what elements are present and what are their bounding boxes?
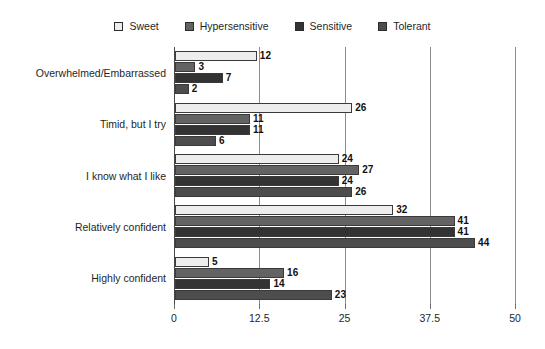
bar-group: 5161423 bbox=[175, 253, 515, 304]
bar[interactable] bbox=[175, 205, 393, 215]
bar-value-label: 2 bbox=[189, 84, 198, 94]
x-axis-tick bbox=[259, 304, 260, 309]
bar-row: 14 bbox=[175, 279, 516, 289]
legend-item-sweet[interactable]: Sweet bbox=[114, 21, 158, 32]
bar-group: 12372 bbox=[175, 47, 515, 98]
bar-value-label: 11 bbox=[250, 114, 264, 124]
bar-value-label: 24 bbox=[339, 176, 353, 186]
bar-row: 7 bbox=[175, 73, 516, 83]
bar[interactable] bbox=[175, 279, 270, 289]
x-axis-tick bbox=[515, 304, 516, 309]
bar-row: 12 bbox=[175, 51, 516, 61]
bar-row: 2 bbox=[175, 84, 516, 94]
legend-swatch-icon bbox=[185, 22, 194, 31]
bar-chart: SweetHypersensitiveSensitiveTolerant Ove… bbox=[0, 0, 545, 349]
bar-value-label: 12 bbox=[257, 51, 271, 61]
bar-value-label: 16 bbox=[284, 268, 298, 278]
x-axis-tick-label: 37.5 bbox=[420, 312, 440, 324]
bar-row: 5 bbox=[175, 257, 516, 267]
bar[interactable] bbox=[175, 154, 339, 164]
legend-item-sensitive[interactable]: Sensitive bbox=[295, 21, 353, 32]
bar[interactable] bbox=[175, 62, 195, 72]
bar[interactable] bbox=[175, 125, 250, 135]
x-axis-tick-label: 25 bbox=[339, 312, 351, 324]
bar-value-label: 23 bbox=[332, 290, 346, 300]
bar-row: 11 bbox=[175, 114, 516, 124]
legend-item-label: Sweet bbox=[129, 21, 158, 32]
legend-swatch-icon bbox=[114, 22, 123, 31]
bar[interactable] bbox=[175, 51, 257, 61]
bar-row: 41 bbox=[175, 216, 516, 226]
bar-row: 6 bbox=[175, 136, 516, 146]
legend-item-hypersensitive[interactable]: Hypersensitive bbox=[185, 21, 269, 32]
bar-row: 24 bbox=[175, 154, 516, 164]
category-label: I know what I like bbox=[0, 170, 166, 182]
category-label: Highly confident bbox=[0, 272, 166, 284]
x-axis-tick bbox=[174, 304, 175, 309]
bar[interactable] bbox=[175, 290, 332, 300]
legend-swatch-icon bbox=[378, 22, 387, 31]
bar-row: 41 bbox=[175, 227, 516, 237]
bar[interactable] bbox=[175, 227, 455, 237]
bar[interactable] bbox=[175, 257, 209, 267]
bar[interactable] bbox=[175, 136, 216, 146]
bar[interactable] bbox=[175, 114, 250, 124]
bar-value-label: 26 bbox=[352, 187, 366, 197]
bar-row: 44 bbox=[175, 238, 516, 248]
bar-row: 11 bbox=[175, 125, 516, 135]
bar-row: 27 bbox=[175, 165, 516, 175]
bar-value-label: 24 bbox=[339, 154, 353, 164]
legend-item-label: Tolerant bbox=[393, 21, 430, 32]
bar-value-label: 7 bbox=[223, 73, 232, 83]
category-axis-labels: Overwhelmed/EmbarrassedTimid, but I tryI… bbox=[0, 47, 166, 304]
bar-value-label: 3 bbox=[195, 62, 204, 72]
legend-item-label: Hypersensitive bbox=[200, 21, 269, 32]
bar-value-label: 5 bbox=[209, 257, 218, 267]
bar[interactable] bbox=[175, 103, 352, 113]
bar-value-label: 44 bbox=[475, 238, 489, 248]
bar-value-label: 11 bbox=[250, 125, 264, 135]
bar[interactable] bbox=[175, 176, 339, 186]
legend-item-tolerant[interactable]: Tolerant bbox=[378, 21, 430, 32]
bar[interactable] bbox=[175, 238, 475, 248]
bar-value-label: 6 bbox=[216, 136, 225, 146]
bar-group: 32414144 bbox=[175, 201, 515, 252]
bar-value-label: 26 bbox=[352, 103, 366, 113]
bar-row: 3 bbox=[175, 62, 516, 72]
bar-value-label: 27 bbox=[359, 165, 373, 175]
bar-row: 26 bbox=[175, 187, 516, 197]
bar-group: 2611116 bbox=[175, 98, 515, 149]
bar-value-label: 41 bbox=[455, 216, 469, 226]
category-label: Relatively confident bbox=[0, 221, 166, 233]
x-axis-tick-label: 50 bbox=[509, 312, 521, 324]
bar[interactable] bbox=[175, 73, 223, 83]
bar-row: 32 bbox=[175, 205, 516, 215]
x-axis-tick bbox=[430, 304, 431, 309]
legend-item-label: Sensitive bbox=[310, 21, 353, 32]
bar[interactable] bbox=[175, 165, 359, 175]
category-label: Overwhelmed/Embarrassed bbox=[0, 67, 166, 79]
bar-row: 16 bbox=[175, 268, 516, 278]
bar[interactable] bbox=[175, 216, 455, 226]
bar-row: 23 bbox=[175, 290, 516, 300]
chart-legend: SweetHypersensitiveSensitiveTolerant bbox=[0, 21, 545, 32]
bar-row: 26 bbox=[175, 103, 516, 113]
bar-value-label: 14 bbox=[270, 279, 284, 289]
bar[interactable] bbox=[175, 84, 189, 94]
x-axis-tick-label: 12.5 bbox=[249, 312, 269, 324]
bar-group: 24272426 bbox=[175, 150, 515, 201]
category-label: Timid, but I try bbox=[0, 118, 166, 130]
bar[interactable] bbox=[175, 187, 352, 197]
bar-value-label: 41 bbox=[455, 227, 469, 237]
x-axis-tick-label: 0 bbox=[171, 312, 177, 324]
x-axis-tick bbox=[345, 304, 346, 309]
plot-area: 12372261111624272426324141445161423 bbox=[174, 47, 515, 304]
legend-swatch-icon bbox=[295, 22, 304, 31]
bar-row: 24 bbox=[175, 176, 516, 186]
bar-value-label: 32 bbox=[393, 205, 407, 215]
bar[interactable] bbox=[175, 268, 284, 278]
